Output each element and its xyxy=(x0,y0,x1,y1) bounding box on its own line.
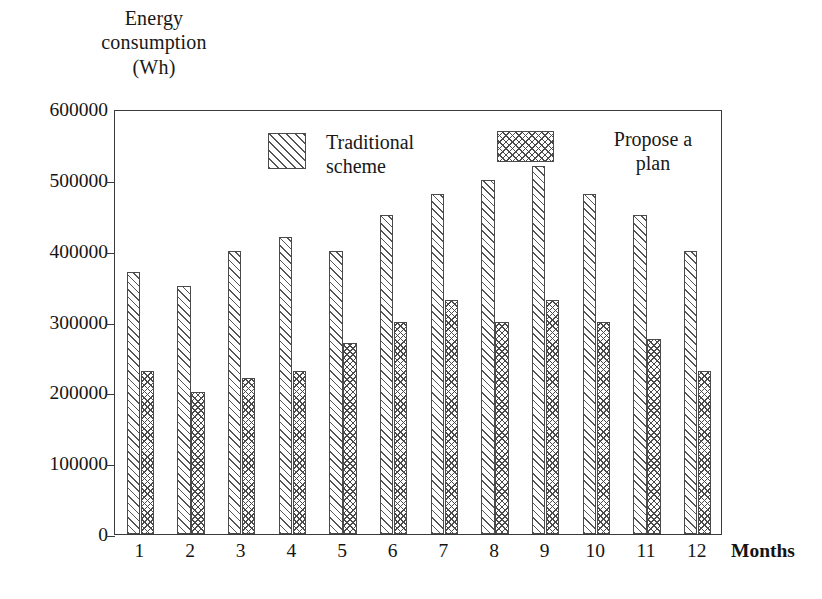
bar-traditional-scheme-month-1 xyxy=(127,272,141,534)
y-axis-tick-label: 100000 xyxy=(50,454,109,474)
bar-traditional-scheme-month-3 xyxy=(228,251,242,534)
bar-propose-a-plan-month-12 xyxy=(698,371,712,534)
bar-traditional-scheme-month-7 xyxy=(431,194,445,534)
y-axis-tick xyxy=(106,394,115,395)
legend-swatch-cross-hatch-icon xyxy=(497,131,554,162)
x-axis-tick-label-2: 2 xyxy=(185,541,195,561)
bar-traditional-scheme-month-4 xyxy=(279,237,293,535)
y-axis-title-line-1: Energy xyxy=(54,6,254,30)
bar-propose-a-plan-month-5 xyxy=(343,343,357,534)
legend-label-traditional-scheme: Traditional scheme xyxy=(326,130,456,178)
y-axis-tick-label: 200000 xyxy=(50,383,109,403)
y-axis-tick xyxy=(106,182,115,183)
x-axis-tick-label-9: 9 xyxy=(540,541,550,561)
bar-propose-a-plan-month-4 xyxy=(293,371,307,534)
y-axis-tick xyxy=(106,253,115,254)
bar-propose-a-plan-month-9 xyxy=(546,300,560,534)
bar-propose-a-plan-month-11 xyxy=(647,339,661,534)
bar-propose-a-plan-month-2 xyxy=(191,392,205,534)
bar-propose-a-plan-month-6 xyxy=(394,322,408,535)
y-axis-title: Energy consumption (Wh) xyxy=(54,6,254,79)
bar-propose-a-plan-month-7 xyxy=(445,300,459,534)
y-axis-tick-label: 300000 xyxy=(50,313,109,333)
y-axis-tick-label: 0 xyxy=(98,525,108,545)
bar-propose-a-plan-month-1 xyxy=(141,371,155,534)
bar-traditional-scheme-month-5 xyxy=(329,251,343,534)
x-axis-tick-label-11: 11 xyxy=(637,541,656,561)
bar-traditional-scheme-month-9 xyxy=(532,166,546,534)
y-axis-tick-label: 600000 xyxy=(50,100,109,120)
bar-traditional-scheme-month-12 xyxy=(684,251,698,534)
x-axis-tick-label-12: 12 xyxy=(687,541,707,561)
bar-traditional-scheme-month-8 xyxy=(481,180,495,534)
legend-label-propose-a-plan: Propose a plan xyxy=(578,127,728,175)
bar-propose-a-plan-month-8 xyxy=(495,322,509,535)
x-axis-title: Months xyxy=(731,540,795,562)
bar-traditional-scheme-month-2 xyxy=(177,286,191,534)
y-axis-title-line-2: consumption xyxy=(54,30,254,54)
bar-traditional-scheme-month-10 xyxy=(583,194,597,534)
y-axis-tick xyxy=(106,324,115,325)
x-axis-tick-label-7: 7 xyxy=(438,541,448,561)
x-axis-tick-label-3: 3 xyxy=(236,541,246,561)
y-axis-tick xyxy=(106,536,115,537)
x-axis-tick-label-6: 6 xyxy=(388,541,398,561)
y-axis-tick-label: 400000 xyxy=(50,242,109,262)
y-axis-title-line-3: (Wh) xyxy=(54,55,254,79)
x-axis-tick-label-4: 4 xyxy=(286,541,296,561)
x-axis-tick-label-10: 10 xyxy=(586,541,606,561)
bar-traditional-scheme-month-11 xyxy=(633,215,647,534)
x-axis-tick-label-5: 5 xyxy=(337,541,347,561)
bar-propose-a-plan-month-10 xyxy=(597,322,611,535)
chart-figure: Energy consumption (Wh) 0100000200000300… xyxy=(0,0,822,599)
y-axis-tick xyxy=(106,465,115,466)
x-axis-tick-label-8: 8 xyxy=(489,541,499,561)
legend-swatch-diagonal-hatch-icon xyxy=(268,133,306,169)
bar-traditional-scheme-month-6 xyxy=(380,215,394,534)
y-axis-tick-label: 500000 xyxy=(50,171,109,191)
x-axis-tick-label-1: 1 xyxy=(134,541,144,561)
bar-propose-a-plan-month-3 xyxy=(242,378,256,534)
